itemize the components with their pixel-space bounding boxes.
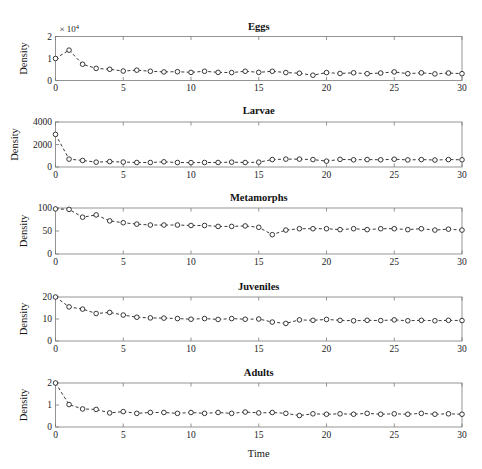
data-point-marker — [243, 224, 248, 229]
x-tick-label: 15 — [254, 83, 264, 93]
data-point-marker — [53, 295, 58, 300]
data-point-marker — [297, 157, 302, 162]
data-point-marker — [419, 318, 424, 323]
data-point-marker — [351, 226, 356, 231]
data-point-marker — [378, 158, 383, 163]
data-point-marker — [162, 223, 167, 228]
data-point-marker — [67, 402, 72, 407]
data-point-marker — [446, 412, 451, 417]
data-point-marker — [175, 316, 180, 321]
data-point-marker — [406, 318, 411, 323]
data-point-marker — [148, 223, 153, 228]
data-point-marker — [284, 157, 289, 162]
data-point-marker — [216, 410, 221, 415]
data-point-marker — [270, 410, 275, 415]
data-point-marker — [80, 307, 85, 312]
data-point-marker — [53, 56, 58, 61]
data-point-marker — [365, 227, 370, 232]
y-axis-label: Density — [18, 41, 29, 74]
data-point-marker — [121, 69, 126, 74]
data-point-marker — [311, 157, 316, 162]
data-point-marker — [148, 160, 153, 165]
data-point-marker — [67, 305, 72, 310]
x-tick-label: 10 — [186, 170, 196, 180]
data-point-marker — [392, 318, 397, 323]
data-point-marker — [378, 412, 383, 417]
data-point-marker — [365, 318, 370, 323]
data-point-marker — [256, 317, 261, 322]
data-point-marker — [365, 71, 370, 76]
x-tick-label: 15 — [254, 170, 264, 180]
data-point-marker — [338, 318, 343, 323]
x-axis-label: Time — [248, 448, 270, 459]
data-point-marker — [229, 316, 234, 321]
data-point-marker — [189, 317, 194, 322]
data-point-marker — [446, 157, 451, 162]
data-point-marker — [162, 410, 167, 415]
data-point-marker — [284, 70, 289, 75]
x-tick-label: 5 — [121, 430, 126, 440]
data-point-marker — [80, 215, 85, 220]
y-tick-label: 2 — [47, 378, 52, 388]
x-tick-label: 5 — [121, 170, 126, 180]
data-point-marker — [202, 411, 207, 416]
x-tick-label: 20 — [322, 430, 332, 440]
data-point-marker — [270, 157, 275, 162]
data-point-marker — [324, 70, 329, 75]
data-point-marker — [175, 160, 180, 165]
data-point-marker — [351, 158, 356, 163]
data-point-marker — [229, 160, 234, 165]
y-tick-label: 10 — [43, 314, 53, 324]
data-point-marker — [202, 160, 207, 165]
data-point-marker — [243, 160, 248, 165]
x-tick-label: 15 — [254, 430, 264, 440]
x-tick-label: 5 — [121, 257, 126, 267]
data-point-marker — [67, 48, 72, 53]
data-point-marker — [175, 69, 180, 74]
data-point-marker — [392, 70, 397, 75]
data-point-marker — [338, 227, 343, 232]
data-point-marker — [419, 157, 424, 162]
axis-box — [56, 208, 463, 254]
x-tick-label: 25 — [390, 430, 400, 440]
y-axis-label: Density — [18, 214, 29, 247]
data-point-marker — [67, 207, 72, 212]
data-point-marker — [256, 70, 261, 75]
data-point-marker — [419, 226, 424, 231]
data-point-marker — [189, 410, 194, 415]
data-point-marker — [378, 318, 383, 323]
data-point-marker — [121, 409, 126, 414]
data-point-marker — [351, 318, 356, 323]
y-tick-label: 2000 — [33, 140, 52, 150]
y-tick-label: 20 — [43, 292, 53, 302]
data-point-marker — [202, 69, 207, 74]
data-point-marker — [189, 70, 194, 75]
x-tick-label: 5 — [121, 83, 126, 93]
data-point-marker — [324, 317, 329, 322]
panel-metamorphs: Metamorphs051015202530050100Density — [18, 192, 468, 267]
y-tick-label: 1 — [47, 400, 52, 410]
data-point-marker — [175, 223, 180, 228]
data-point-marker — [311, 412, 316, 417]
data-point-marker — [351, 412, 356, 417]
data-point-marker — [135, 160, 140, 165]
data-point-marker — [148, 410, 153, 415]
y-tick-label: 0 — [47, 336, 52, 346]
x-tick-label: 10 — [186, 430, 196, 440]
data-point-marker — [243, 317, 248, 322]
data-point-marker — [107, 67, 112, 72]
panel-title: Adults — [244, 367, 274, 378]
data-point-marker — [311, 318, 316, 323]
data-point-marker — [80, 62, 85, 67]
panel-juveniles: Juveniles05101520253001020Density — [18, 281, 468, 354]
data-point-marker — [256, 411, 261, 416]
data-point-marker — [135, 222, 140, 227]
panel-adults: Adults051015202530012Density — [18, 367, 468, 440]
data-point-marker — [392, 157, 397, 162]
x-tick-label: 0 — [53, 83, 58, 93]
y-axis-exponent: × 104 — [60, 23, 80, 34]
x-tick-label: 15 — [254, 257, 264, 267]
data-point-marker — [94, 213, 99, 218]
x-tick-label: 30 — [457, 83, 467, 93]
data-point-marker — [460, 412, 465, 417]
